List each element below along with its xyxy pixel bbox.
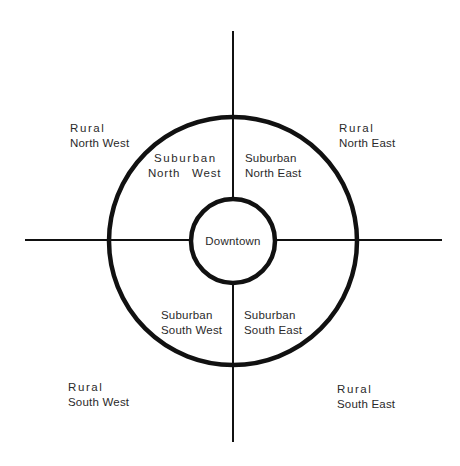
label-line: Rural <box>339 121 395 136</box>
label-line: Rural <box>70 121 129 136</box>
suburban-south-east-label: Suburban South East <box>244 308 302 338</box>
label-line: North West <box>70 136 129 151</box>
rural-south-east-label: Rural South East <box>337 382 395 412</box>
label-line: South East <box>244 323 302 338</box>
suburban-north-west-label: Suburban North West <box>148 151 221 181</box>
downtown-label: Downtown <box>0 234 460 249</box>
label-line: Rural <box>337 382 395 397</box>
rural-north-west-label: Rural North West <box>70 121 129 151</box>
label-line: South East <box>337 397 395 412</box>
label-line: North West <box>148 166 221 181</box>
label-line: South West <box>161 323 222 338</box>
label-line: Suburban <box>245 151 301 166</box>
suburban-north-east-label: Suburban North East <box>245 151 301 181</box>
label-line: North East <box>245 166 301 181</box>
downtown-text: Downtown <box>0 234 460 249</box>
rural-north-east-label: Rural North East <box>339 121 395 151</box>
rural-south-west-label: Rural South West <box>68 380 129 410</box>
suburban-south-west-label: Suburban South West <box>161 308 222 338</box>
label-line: Rural <box>68 380 129 395</box>
label-line: Suburban <box>161 308 222 323</box>
label-line: Suburban <box>244 308 302 323</box>
label-line: North East <box>339 136 395 151</box>
label-line: South West <box>68 395 129 410</box>
label-line: Suburban <box>148 151 221 166</box>
